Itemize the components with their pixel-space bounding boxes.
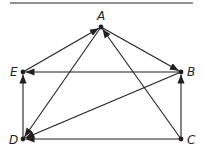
edge-e-to-a bbox=[23, 28, 99, 72]
node-e-dot bbox=[21, 70, 26, 75]
node-a-dot bbox=[99, 25, 104, 30]
node-c-dot bbox=[179, 137, 184, 142]
node-e-label: E bbox=[10, 65, 18, 79]
node-d-label: D bbox=[9, 133, 18, 147]
edge-a-to-d bbox=[24, 27, 101, 137]
node-b-label: B bbox=[187, 65, 195, 79]
edge-a-to-b bbox=[101, 27, 179, 71]
edge-c-to-a bbox=[102, 29, 181, 139]
node-c-label: C bbox=[187, 133, 196, 147]
edge-b-to-d bbox=[25, 72, 181, 138]
node-a-label: A bbox=[96, 9, 105, 23]
directed-graph: ABCDE bbox=[0, 0, 203, 151]
node-d-dot bbox=[21, 137, 26, 142]
node-b-dot bbox=[179, 70, 184, 75]
edge-group bbox=[23, 27, 181, 139]
